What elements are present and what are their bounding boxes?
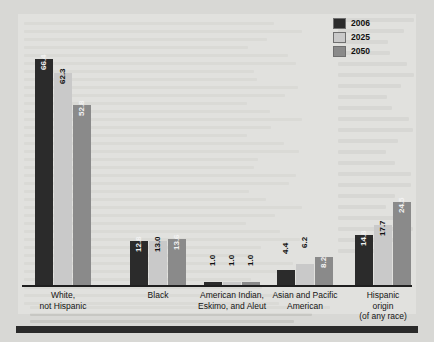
bar-2006-group-3 [204, 282, 222, 285]
bar-2050-group-5 [393, 202, 411, 285]
legend-item-2006: 2006 [333, 17, 370, 29]
bar-2006-group-4 [277, 270, 295, 285]
legend-label: 2025 [351, 32, 370, 42]
bottom-rule [16, 326, 418, 333]
bar-2006-group-1 [35, 59, 53, 285]
bar-2025-group-4 [296, 264, 314, 285]
bar-value-label: 13.0 [154, 236, 162, 252]
chart-screenshot: 66.462.352.8White, not Hispanic12.813.01… [0, 0, 434, 342]
x-axis-category-label: Hispanic origin (of any race) [328, 290, 434, 322]
bar-value-label: 62.3 [59, 69, 67, 85]
bar-value-label: 13.6 [173, 234, 181, 250]
bar-2025-group-1 [54, 73, 72, 285]
bar-2050-group-1 [73, 105, 91, 285]
legend-swatch-icon [333, 46, 346, 57]
bar-value-label: 1.0 [228, 254, 236, 265]
x-axis-category-label: White, not Hispanic [8, 290, 118, 311]
bar-value-label: 1.0 [247, 254, 255, 265]
x-axis-line [22, 285, 412, 287]
bar-value-label: 24.5 [398, 197, 406, 213]
bar-2050-group-3 [242, 282, 260, 285]
legend-item-2050: 2050 [333, 45, 370, 57]
bar-value-label: 8.2 [320, 257, 328, 268]
bar-value-label: 66.4 [40, 55, 48, 71]
chart-legend: 200620252050 [333, 17, 370, 59]
legend-swatch-icon [333, 18, 346, 29]
bar-value-label: 6.2 [301, 237, 309, 248]
legend-item-2025: 2025 [333, 31, 370, 43]
legend-swatch-icon [333, 32, 346, 43]
bar-value-label: 52.8 [78, 101, 86, 117]
bar-value-label: 17.7 [379, 220, 387, 236]
legend-label: 2006 [351, 18, 370, 28]
bar-value-label: 1.0 [209, 254, 217, 265]
bar-value-label: 14.8 [360, 230, 368, 246]
bar-2025-group-3 [223, 282, 241, 285]
bar-value-label: 4.4 [282, 243, 290, 254]
bar-value-label: 12.8 [135, 237, 143, 253]
legend-label: 2050 [351, 46, 370, 56]
